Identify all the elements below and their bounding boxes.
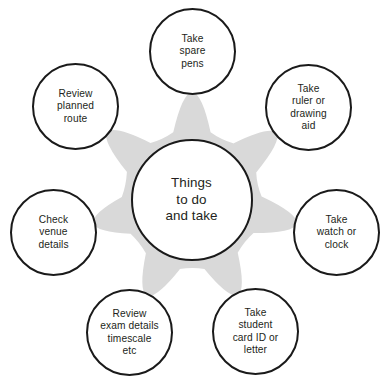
things-to-do-and-take-diagram: Things to do and take Take spare pens Ta… (0, 0, 380, 385)
node-take-ruler-or-drawing-aid: Take ruler or drawing aid (265, 64, 352, 151)
node-label-take-watch-or-clock: Take watch or clock (317, 214, 356, 250)
node-take-spare-pens: Take spare pens (149, 8, 236, 95)
node-label-take-spare-pens: Take spare pens (180, 33, 206, 69)
node-label-review-planned-route: Review planned route (57, 88, 94, 124)
node-check-venue-details: Check venue details (10, 189, 97, 276)
node-take-watch-or-clock: Take watch or clock (293, 189, 380, 276)
node-label-take-student-card-id-or-letter: Take student card ID or letter (233, 307, 279, 355)
node-label-take-ruler-or-drawing-aid: Take ruler or drawing aid (290, 83, 326, 131)
node-take-student-card-id-or-letter: Take student card ID or letter (212, 288, 299, 375)
node-label-review-exam-details-timescale-etc: Review exam details timescale etc (100, 308, 158, 356)
center-node-things-to-do-and-take: Things to do and take (131, 139, 253, 261)
node-review-exam-details-timescale-etc: Review exam details timescale etc (86, 289, 173, 376)
node-label-check-venue-details: Check venue details (38, 214, 68, 250)
node-review-planned-route: Review planned route (32, 63, 119, 150)
center-node-label: Things to do and take (165, 175, 217, 224)
